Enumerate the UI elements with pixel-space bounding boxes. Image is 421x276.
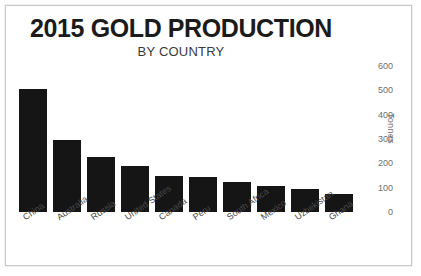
bar-slot [53, 66, 81, 212]
bar-slot [223, 66, 251, 212]
bar-slot [121, 66, 149, 212]
y-tick-label: 200 [378, 158, 393, 168]
bar-china[interactable] [19, 89, 47, 212]
chart-frame: 2015 GOLD PRODUCTION BY COUNTRY 60050040… [5, 5, 412, 266]
title-block: 2015 GOLD PRODUCTION BY COUNTRY [6, 13, 356, 60]
bar-slot [19, 66, 47, 212]
y-tick-label: 600 [378, 61, 393, 71]
y-tick-label: 500 [378, 85, 393, 95]
chart-title: 2015 GOLD PRODUCTION [6, 13, 356, 43]
y-axis-title: Tonnes [386, 113, 396, 144]
bar-slot [87, 66, 115, 212]
bar-slot [189, 66, 217, 212]
bar-slot [291, 66, 319, 212]
y-tick-label: 100 [378, 183, 393, 193]
plot-area [19, 66, 359, 212]
chart-subtitle: BY COUNTRY [6, 43, 356, 60]
x-axis: ChinaAustraliaRussiaUnited StatesCanadaP… [19, 212, 412, 266]
